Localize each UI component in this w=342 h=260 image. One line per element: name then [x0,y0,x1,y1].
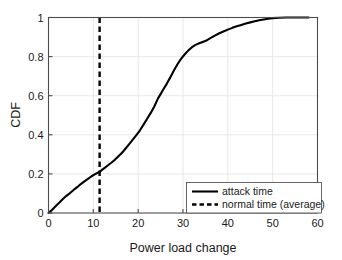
y-tick-label: 0.4 [28,129,43,141]
y-tick-label: 0.6 [28,90,43,102]
cdf-chart-figure: 0102030405060 00.20.40.60.81 Power load … [0,0,342,260]
y-tick-label: 0 [37,207,43,219]
y-tick-label: 0.8 [28,51,43,63]
x-axis-title: Power load change [129,241,236,255]
x-tick-label: 60 [311,217,323,229]
chart-legend: attack time normal time (average) [187,183,325,214]
y-tick-label: 1 [37,12,43,24]
legend-label-normal-time: normal time (average) [222,198,325,210]
x-tick-label: 40 [222,217,234,229]
x-tick-label: 0 [45,217,51,229]
x-tick-label: 10 [87,217,99,229]
x-tick-label: 50 [267,217,279,229]
x-tick-label: 30 [177,217,189,229]
legend-label-attack-time: attack time [222,185,273,197]
x-tick-label: 20 [132,217,144,229]
chart-canvas: 0102030405060 00.20.40.60.81 Power load … [0,0,342,260]
y-tick-label: 0.2 [28,168,43,180]
y-axis-title: CDF [9,102,23,128]
